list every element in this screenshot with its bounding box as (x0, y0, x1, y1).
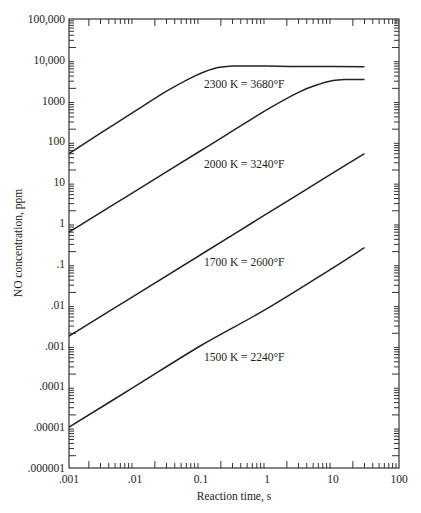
y-tick-label: 10 (54, 176, 66, 188)
x-tick-label: 100 (390, 473, 408, 485)
data-curves (69, 66, 365, 427)
curve-label: 2000 K = 3240°F (204, 158, 284, 170)
y-tick-label: .001 (45, 340, 65, 352)
x-tick-label: .001 (59, 473, 79, 485)
curve-2000k (69, 79, 365, 232)
curve-1500k (69, 248, 365, 428)
y-tick-label: 1 (59, 217, 65, 229)
curve-label: 2300 K = 3680°F (204, 78, 284, 90)
curve-label: 1700 K = 2600°F (204, 256, 284, 268)
y-tick-label: .00001 (33, 421, 65, 433)
log-log-chart: 100,00010,0001000100101.1.01.001.0001.00… (0, 0, 421, 513)
y-axis-title: NO concentration, ppm (12, 189, 25, 297)
x-tick-label: .01 (128, 473, 143, 485)
curve-labels: 2300 K = 3680°F2000 K = 3240°F1700 K = 2… (204, 78, 284, 363)
y-tick-label: 10,000 (33, 54, 65, 67)
y-tick-label: .0001 (39, 380, 65, 392)
y-tick-label: .1 (56, 258, 65, 270)
x-tick-label: 0.1 (194, 473, 209, 485)
y-tick-label: .01 (51, 299, 66, 311)
curve-1700k (69, 154, 365, 336)
y-tick-label: 100 (48, 135, 66, 147)
y-tick-labels: 100,00010,0001000100101.1.01.001.0001.00… (28, 13, 66, 474)
x-tick-label: 1 (264, 473, 270, 485)
x-tick-label: 10 (327, 473, 339, 485)
curve-label: 1500 K = 2240°F (204, 351, 284, 363)
x-axis-title: Reaction time, s (197, 490, 272, 503)
x-tick-labels: .001.010.1110100 (59, 473, 408, 485)
y-tick-label: 1000 (42, 95, 65, 107)
y-tick-label: 100,000 (28, 13, 66, 26)
